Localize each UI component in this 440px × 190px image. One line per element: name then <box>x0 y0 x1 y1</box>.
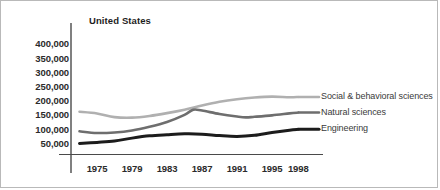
legend-swatches <box>299 97 319 129</box>
series-line <box>80 109 299 133</box>
legend-label: Social & behavioral sciences <box>321 91 433 101</box>
legend-label: Natural sciences <box>321 107 386 117</box>
series-lines <box>80 97 299 144</box>
legend-label: Engineering <box>321 123 368 133</box>
chart-frame: United States 400,000350,000300,000250,0… <box>0 0 438 188</box>
series-line <box>80 97 299 118</box>
